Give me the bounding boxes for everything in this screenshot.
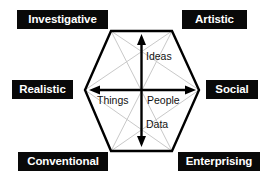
axis-label-data: Data (146, 118, 168, 130)
corner-label-enterprising[interactable]: Enterprising (178, 152, 260, 171)
axis-label-ideas: Ideas (146, 50, 172, 62)
axis-label-things: Things (97, 94, 129, 106)
corner-label-conventional[interactable]: Conventional (18, 152, 108, 171)
corner-label-investigative[interactable]: Investigative (17, 10, 108, 29)
axis-label-people: People (147, 94, 180, 106)
corner-label-artistic[interactable]: Artistic (182, 10, 247, 29)
corner-label-social[interactable]: Social (206, 80, 258, 99)
corner-label-realistic[interactable]: Realistic (12, 80, 73, 99)
riasec-hexagon-diagram: Investigative Artistic Realistic Social … (0, 0, 265, 181)
